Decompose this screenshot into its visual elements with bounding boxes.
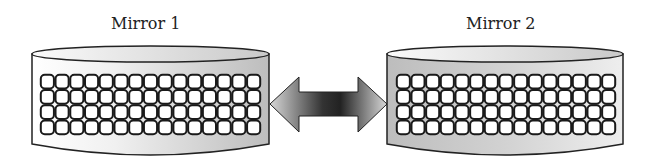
disk-cell: [56, 90, 69, 104]
disk-cell: [85, 75, 98, 89]
disk-cell: [247, 121, 260, 135]
disk-cell: [529, 105, 542, 119]
disk-cell: [455, 105, 468, 119]
disk-cell: [85, 90, 98, 104]
disk-cell: [173, 105, 186, 119]
disk-cell: [100, 121, 113, 135]
disk-cell: [426, 121, 439, 135]
disk-cell: [144, 121, 157, 135]
disk-cell: [573, 121, 586, 135]
disk-cell: [411, 121, 424, 135]
disk-cell: [455, 75, 468, 89]
disk-cell: [129, 121, 142, 135]
disk-cell: [529, 121, 542, 135]
disk-cell: [144, 90, 157, 104]
disk-cell: [114, 75, 127, 89]
disk-cell: [247, 105, 260, 119]
disk-cell: [441, 75, 454, 89]
disk-cell: [100, 90, 113, 104]
disk-cell: [56, 121, 69, 135]
disk-cell: [232, 121, 245, 135]
mirror-2-label: Mirror 2: [466, 14, 535, 33]
disk-cell: [173, 121, 186, 135]
disk-cell: [587, 75, 600, 89]
disk-cell: [100, 75, 113, 89]
disk-cell: [514, 105, 527, 119]
disk-cell: [144, 75, 157, 89]
disk-cell: [573, 90, 586, 104]
disk-cell: [558, 75, 571, 89]
disk-cell: [203, 105, 216, 119]
disk-cell: [455, 121, 468, 135]
disk-cell: [218, 90, 231, 104]
disk-cell: [543, 90, 556, 104]
disk-cell: [426, 75, 439, 89]
disk-cell: [144, 105, 157, 119]
disk-cell: [232, 105, 245, 119]
disk-cell: [397, 105, 410, 119]
disk-cell: [499, 105, 512, 119]
disk-cell: [159, 90, 172, 104]
disk-cell: [41, 105, 54, 119]
disk-cell: [397, 121, 410, 135]
disk-cell: [56, 105, 69, 119]
disk-cell: [470, 75, 483, 89]
disk-cell: [188, 105, 201, 119]
bidirectional-arrow-icon: [270, 77, 387, 132]
disk-cell: [470, 121, 483, 135]
disk-cell: [70, 90, 83, 104]
disk-cell: [587, 105, 600, 119]
disk-cell: [485, 121, 498, 135]
disk-cell: [602, 90, 615, 104]
disk-cell: [529, 90, 542, 104]
disk-cell: [129, 90, 142, 104]
disk-cell: [397, 90, 410, 104]
disk-cell: [188, 75, 201, 89]
disk-cell: [188, 121, 201, 135]
disk-cell: [573, 75, 586, 89]
disk-cell: [41, 121, 54, 135]
disk-cell: [514, 121, 527, 135]
disk-cell: [173, 90, 186, 104]
disk-cell: [100, 105, 113, 119]
mirror-1-cylinder: [32, 46, 269, 155]
disk-cell: [455, 90, 468, 104]
disk-cell: [573, 105, 586, 119]
disk-cell: [514, 90, 527, 104]
disk-cell: [514, 75, 527, 89]
disk-cell: [85, 121, 98, 135]
disk-cell: [543, 121, 556, 135]
disk-cell: [543, 75, 556, 89]
disk-cell: [602, 75, 615, 89]
disk-cell: [70, 75, 83, 89]
disk-cell: [247, 90, 260, 104]
disk-cell: [159, 105, 172, 119]
disk-cell: [85, 105, 98, 119]
disk-cell: [203, 75, 216, 89]
disk-cell: [41, 90, 54, 104]
disk-cell: [203, 121, 216, 135]
disk-cell: [411, 75, 424, 89]
disk-cell: [232, 90, 245, 104]
disk-cell: [499, 121, 512, 135]
disk-cell: [70, 121, 83, 135]
disk-cell: [558, 90, 571, 104]
disk-cell: [470, 105, 483, 119]
disk-cell: [543, 105, 556, 119]
disk-cell: [188, 90, 201, 104]
mirror-diagram: [0, 0, 655, 165]
disk-cell: [129, 75, 142, 89]
disk-cell: [114, 105, 127, 119]
disk-cell: [218, 105, 231, 119]
disk-cell: [114, 121, 127, 135]
disk-cell: [159, 75, 172, 89]
disk-cell: [529, 75, 542, 89]
disk-cell: [470, 90, 483, 104]
disk-cell: [159, 121, 172, 135]
disk-cell: [485, 90, 498, 104]
disk-cell: [397, 75, 410, 89]
disk-cell: [441, 105, 454, 119]
disk-cell: [499, 75, 512, 89]
disk-cell: [602, 121, 615, 135]
disk-cell: [203, 90, 216, 104]
